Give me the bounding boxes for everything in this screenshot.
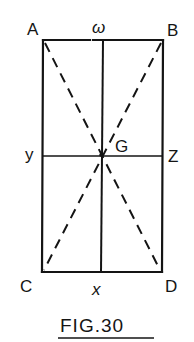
side-ca bbox=[42, 40, 43, 272]
figure-30-diagram: A B ω G y Z C x D FIG.30 bbox=[0, 0, 194, 342]
centre-point-g bbox=[99, 153, 103, 157]
label-x: x bbox=[91, 280, 101, 299]
figure-caption: FIG.30 bbox=[60, 315, 124, 336]
side-bd bbox=[162, 40, 163, 272]
label-z: Z bbox=[168, 147, 178, 166]
label-w: ω bbox=[92, 18, 105, 37]
label-y: y bbox=[25, 145, 34, 164]
label-d: D bbox=[165, 277, 177, 296]
label-a: A bbox=[27, 20, 39, 39]
label-c: C bbox=[20, 277, 32, 296]
label-b: B bbox=[167, 21, 178, 40]
label-g: G bbox=[115, 137, 128, 156]
